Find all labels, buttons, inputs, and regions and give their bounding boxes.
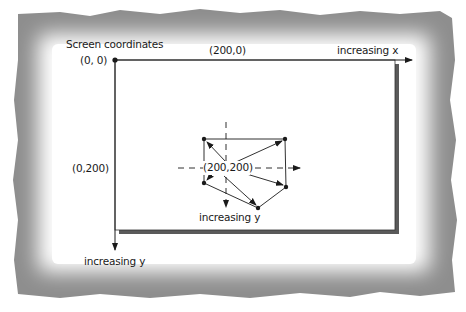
y-mark-label: (0,200) xyxy=(72,162,109,174)
center-label: (200,200) xyxy=(203,161,253,173)
inner-y-axis-label: increasing y xyxy=(199,211,260,223)
x-axis-label: increasing x xyxy=(337,44,398,56)
diagram-title: Screen coordinates xyxy=(66,38,163,50)
origin-label: (0, 0) xyxy=(80,54,107,66)
x-mark-label: (200,0) xyxy=(209,44,246,56)
y-axis-label: increasing y xyxy=(84,255,145,267)
origin-dot xyxy=(112,57,117,62)
diagram-canvas: Screen coordinates (0, 0) (200,0) increa… xyxy=(0,0,466,312)
